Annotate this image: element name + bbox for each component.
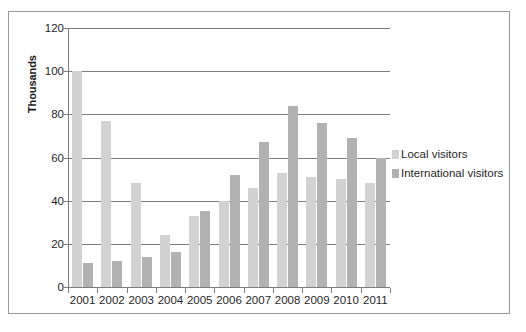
bar-2001-international <box>83 263 93 287</box>
bar-2004-international <box>171 252 181 287</box>
bar-2005-local <box>189 216 199 287</box>
bar-2001-local <box>72 71 82 287</box>
x-tick-mark-8 <box>302 288 303 293</box>
x-tick-mark-0 <box>68 288 69 293</box>
x-tick-mark-6 <box>244 288 245 293</box>
y-tick-label-40: 40 <box>30 195 64 207</box>
x-tick-mark-end <box>390 288 391 293</box>
bar-2008-local <box>277 173 287 287</box>
x-tick-mark-2 <box>127 288 128 293</box>
bar-2011-international <box>376 158 386 288</box>
x-tick-mark-4 <box>185 288 186 293</box>
legend-swatch-icon <box>392 169 399 178</box>
bar-2003-local <box>131 183 141 287</box>
x-tick-mark-1 <box>97 288 98 293</box>
bar-2009-local <box>306 177 316 287</box>
bar-2011-local <box>365 183 375 287</box>
bar-2008-international <box>288 106 298 287</box>
bar-2002-international <box>112 261 122 287</box>
y-tick-label-20: 20 <box>30 238 64 250</box>
y-tick-label-0: 0 <box>30 281 64 293</box>
chart-legend: Local visitorsInternational visitors <box>392 148 520 186</box>
x-tick-mark-10 <box>361 288 362 293</box>
bar-2005-international <box>200 211 210 287</box>
bar-2007-local <box>248 188 258 287</box>
x-axis-tick-marks <box>68 288 390 293</box>
x-tick-mark-5 <box>214 288 215 293</box>
y-tick-label-100: 100 <box>30 65 64 77</box>
bars-layer <box>68 28 390 287</box>
y-axis-tick-labels: 020406080100120 <box>24 28 64 287</box>
bar-2003-international <box>142 257 152 287</box>
legend-label: Local visitors <box>401 148 467 160</box>
x-tick-mark-3 <box>156 288 157 293</box>
legend-label: International visitors <box>401 167 503 179</box>
legend-item-local[interactable]: Local visitors <box>392 148 520 160</box>
legend-swatch-icon <box>392 150 399 159</box>
bar-2010-international <box>347 138 357 287</box>
bar-2006-international <box>230 175 240 287</box>
bar-2004-local <box>160 235 170 287</box>
y-tick-label-120: 120 <box>30 22 64 34</box>
bar-2002-local <box>101 121 111 287</box>
x-tick-mark-9 <box>331 288 332 293</box>
legend-item-international[interactable]: International visitors <box>392 167 520 179</box>
bar-2009-international <box>317 123 327 287</box>
bar-2006-local <box>219 201 229 287</box>
x-axis-tick-labels: 2001200220032004200520062007200820092010… <box>38 294 428 310</box>
bar-2007-international <box>259 142 269 287</box>
bar-2010-local <box>336 179 346 287</box>
x-tick-mark-7 <box>273 288 274 293</box>
y-tick-label-80: 80 <box>30 108 64 120</box>
x-tick-label-2011: 2011 <box>355 294 395 306</box>
y-tick-label-60: 60 <box>30 152 64 164</box>
chart-figure: Thousands 020406080100120 20012002200320… <box>0 0 526 332</box>
